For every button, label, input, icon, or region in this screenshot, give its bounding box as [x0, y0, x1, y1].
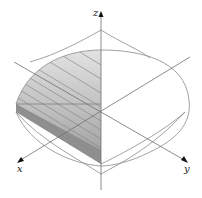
x-axis-label: x: [17, 164, 23, 174]
solid-diagram: z x y: [0, 0, 202, 198]
y-axis-label: y: [184, 164, 190, 174]
diagram-canvas: [0, 0, 202, 198]
z-arrow-icon: [99, 11, 104, 17]
y-arrow-icon: [181, 156, 188, 163]
z-axis-label: z: [93, 8, 98, 18]
